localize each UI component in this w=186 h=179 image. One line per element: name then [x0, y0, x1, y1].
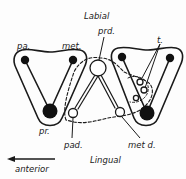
right-metacone-cusp	[166, 54, 174, 62]
protocone-cusp	[43, 104, 58, 119]
right-protocone-cusp	[140, 106, 155, 121]
anterior-label: anterior	[15, 164, 49, 174]
pad-label: pad.	[63, 140, 83, 150]
paraconid-cusp	[69, 109, 78, 118]
lingual-label: Lingual	[90, 155, 121, 165]
metaconid-cusp	[116, 108, 125, 117]
prd-label: prd.	[97, 26, 115, 36]
protoconid-cusp	[90, 60, 106, 76]
t-label: t.	[157, 35, 163, 45]
paracone-cusp	[21, 56, 29, 64]
pa-label: pa.	[16, 41, 30, 51]
pr-label: pr.	[38, 126, 50, 136]
metd-label: met d.	[128, 140, 156, 150]
met-label: met.	[62, 41, 82, 51]
talonid-cusp-3	[133, 95, 138, 100]
metacone-cusp	[69, 56, 77, 64]
cusp-diagram: Labial prd. pa. met. t. pr. pad. met d. …	[0, 0, 186, 179]
talonid-cusp-1	[137, 79, 143, 85]
right-paracone-cusp	[118, 53, 126, 61]
talonid-cusp-2	[141, 87, 147, 93]
labial-label: Labial	[84, 11, 110, 21]
